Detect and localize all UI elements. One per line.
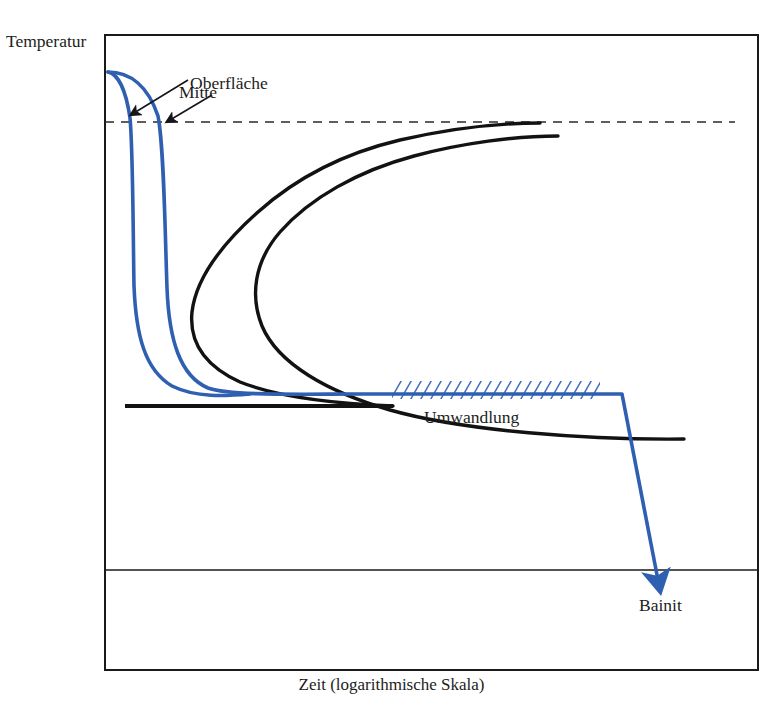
cooling-curve-surface: [108, 72, 250, 396]
ttt-curve-start: [192, 123, 540, 406]
y-axis-label: Temperatur: [6, 33, 86, 51]
annotation-mitte: Mitte: [179, 84, 217, 102]
cooling-curve-centre: [108, 72, 622, 394]
quench-arrow-to-bainite: [622, 394, 658, 580]
hatched-transformation-band: [388, 376, 614, 404]
annotation-bainit: Bainit: [639, 597, 682, 615]
x-axis-label: Zeit (logarithmische Skala): [0, 676, 783, 693]
annotation-umwandlung: Umwandlung: [424, 409, 519, 427]
ttt-diagram-figure: Temperatur Zeit (logarithmische Skala) O…: [0, 0, 783, 703]
